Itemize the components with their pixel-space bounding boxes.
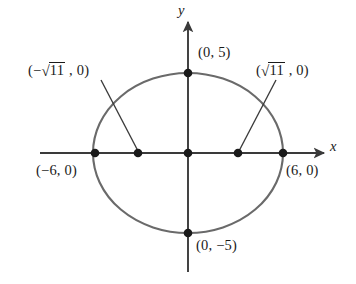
point-vertex-top [184, 69, 193, 78]
label-focus-left: (−√11 , 0) [28, 62, 89, 79]
radicand-left: 11 [49, 62, 65, 78]
point-vertex-bottom [184, 229, 193, 238]
ellipse-figure: x y (−√11 , 0) (√11 , 0) (0, 5) (0, −5) … [0, 0, 356, 284]
label-vertex-bottom: (0, −5) [196, 238, 237, 253]
leader-line-left-focus [101, 80, 138, 151]
label-vertex-right: (6, 0) [286, 163, 319, 178]
point-focus-right [234, 149, 243, 158]
point-focus-left [134, 149, 143, 158]
ellipse-graph-canvas [0, 0, 356, 284]
radicand-right: 11 [268, 62, 284, 78]
label-vertex-top: (0, 5) [198, 45, 231, 60]
y-axis-label: y [178, 3, 184, 18]
label-vertex-left: (−6, 0) [36, 163, 77, 178]
point-center [184, 149, 193, 158]
label-focus-right-close: , 0) [285, 62, 309, 78]
label-focus-left-close: , 0) [65, 62, 89, 78]
leader-line-right-focus [239, 80, 276, 151]
label-focus-right: (√11 , 0) [256, 62, 309, 79]
radical-right: √11 [261, 62, 285, 79]
point-vertex-right [279, 149, 288, 158]
point-vertex-left [91, 149, 100, 158]
radical-left: √11 [41, 62, 65, 79]
label-focus-left-open: (− [28, 62, 41, 78]
x-axis-label: x [330, 139, 336, 154]
